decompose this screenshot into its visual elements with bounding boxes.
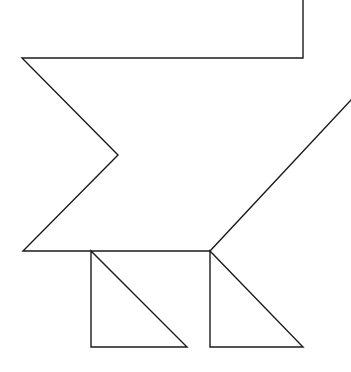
line-drawing-svg (0, 0, 351, 372)
figure-canvas: Black outline line drawing of a zigzag a… (0, 0, 351, 372)
figure-background (0, 0, 351, 372)
